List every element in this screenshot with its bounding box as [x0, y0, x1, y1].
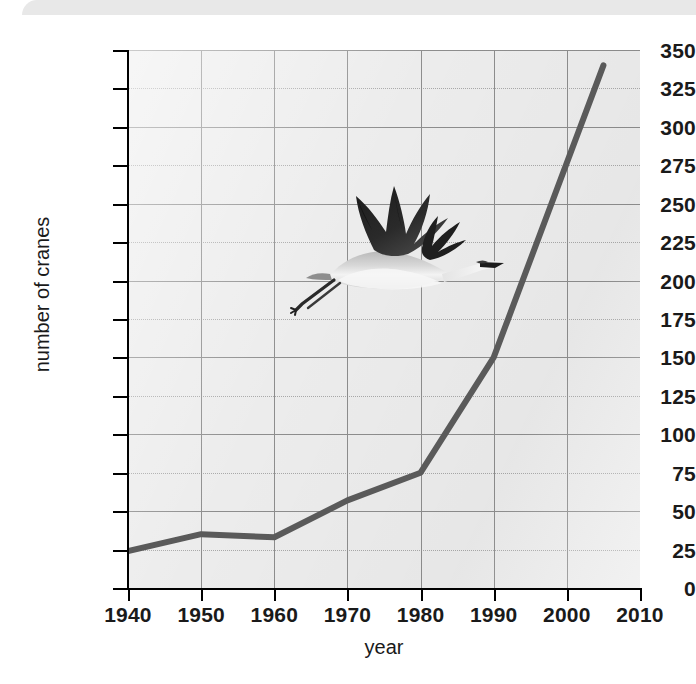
x-tick-1960 [274, 588, 276, 601]
y-tick-label-0: 0 [588, 578, 696, 599]
x-tick-label-1940: 1940 [86, 604, 170, 625]
y-tick-label-325: 325 [588, 78, 696, 99]
x-tick-1970 [347, 588, 349, 601]
y-axis-title: number of cranes [31, 175, 54, 415]
x-tick-label-1960: 1960 [232, 604, 316, 625]
y-tick-300 [113, 127, 128, 129]
y-tick-label-250: 250 [588, 194, 696, 215]
x-tick-2010 [640, 588, 642, 601]
y-tick-label-125: 125 [588, 386, 696, 407]
y-tick-label-225: 225 [588, 232, 696, 253]
y-tick-label-200: 200 [588, 271, 696, 292]
x-axis-title: year [128, 636, 640, 659]
y-tick-50 [113, 511, 128, 513]
y-tick-150 [113, 357, 128, 359]
x-tick-label-2000: 2000 [525, 604, 609, 625]
x-tick-label-2010: 2010 [598, 604, 682, 625]
data-series-line [128, 50, 640, 588]
x-tick-label-1990: 1990 [452, 604, 536, 625]
y-tick-label-50: 50 [588, 501, 696, 522]
y-tick-325 [113, 88, 128, 90]
x-tick-1940 [128, 588, 130, 601]
y-tick-250 [113, 204, 128, 206]
y-tick-label-75: 75 [588, 463, 696, 484]
y-tick-label-150: 150 [588, 347, 696, 368]
y-tick-label-350: 350 [588, 40, 696, 61]
y-tick-175 [113, 319, 128, 321]
y-tick-100 [113, 434, 128, 436]
y-tick-75 [113, 473, 128, 475]
x-tick-2000 [567, 588, 569, 601]
x-tick-1950 [201, 588, 203, 601]
x-tick-label-1970: 1970 [305, 604, 389, 625]
y-tick-25 [113, 550, 128, 552]
y-tick-275 [113, 165, 128, 167]
x-tick-label-1980: 1980 [379, 604, 463, 625]
y-tick-225 [113, 242, 128, 244]
plot-area [128, 50, 640, 588]
x-axis-line [127, 588, 641, 590]
y-tick-label-175: 175 [588, 309, 696, 330]
y-tick-label-100: 100 [588, 424, 696, 445]
y-tick-200 [113, 281, 128, 283]
x-tick-label-1950: 1950 [159, 604, 243, 625]
y-tick-label-25: 25 [588, 540, 696, 561]
chart-figure: 0255075100125150175200225250275300325350… [0, 0, 696, 684]
x-tick-1990 [494, 588, 496, 601]
y-tick-label-300: 300 [588, 117, 696, 138]
y-tick-label-275: 275 [588, 155, 696, 176]
y-tick-125 [113, 396, 128, 398]
x-tick-1980 [421, 588, 423, 601]
y-tick-350 [113, 50, 128, 52]
y-tick-0 [113, 588, 128, 590]
